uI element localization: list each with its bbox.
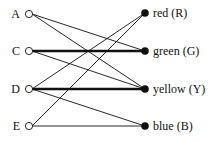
- open-node-A: [25, 10, 32, 17]
- open-node-E: [25, 122, 32, 129]
- node-label-red: red (R): [153, 7, 187, 19]
- edge-A-G: [32, 14, 145, 51]
- node-label-C: C: [4, 45, 20, 57]
- filled-node-R: [141, 9, 149, 17]
- node-label-green: green (G): [153, 45, 199, 57]
- node-label-D: D: [4, 83, 20, 95]
- open-node-D: [25, 85, 32, 92]
- node-label-yellow: yellow (Y): [153, 83, 205, 95]
- node-label-A: A: [4, 8, 20, 20]
- node-label-E: E: [4, 120, 20, 132]
- edge-D-B: [32, 89, 145, 126]
- filled-node-Y: [141, 85, 149, 93]
- filled-node-G: [141, 47, 149, 55]
- open-node-C: [25, 47, 32, 54]
- filled-node-B: [141, 122, 149, 130]
- edge-E-R: [32, 13, 145, 126]
- node-label-blue: blue (B): [153, 120, 193, 132]
